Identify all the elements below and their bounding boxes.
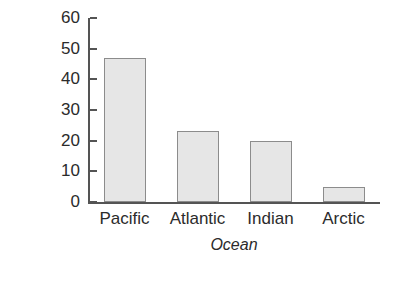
bar: [250, 141, 292, 202]
x-axis-title: Ocean: [88, 236, 380, 254]
bar: [323, 187, 365, 202]
y-axis-tick-label: 50: [34, 39, 80, 59]
y-axis-tick-label: 10: [34, 161, 80, 181]
x-axis-tick-label: Indian: [234, 208, 307, 230]
x-axis-tick-label: Arctic: [307, 208, 380, 230]
x-axis-tick-label: Atlantic: [161, 208, 234, 230]
x-axis-line: [88, 202, 380, 204]
y-axis-tick-label: 60: [34, 8, 80, 28]
bars-layer: [88, 18, 380, 202]
plot-area: 0102030405060: [88, 18, 380, 204]
x-axis-tick-labels: PacificAtlanticIndianArctic: [88, 208, 380, 232]
bar: [177, 131, 219, 202]
bar-chart: Percentage 0102030405060 PacificAtlantic…: [0, 0, 404, 285]
y-axis-tick-label: 0: [34, 192, 80, 212]
bar: [104, 58, 146, 202]
y-axis-tick-label: 40: [34, 69, 80, 89]
y-axis-tick-label: 30: [34, 100, 80, 120]
y-axis-tick-label: 20: [34, 131, 80, 151]
x-axis-tick-label: Pacific: [88, 208, 161, 230]
